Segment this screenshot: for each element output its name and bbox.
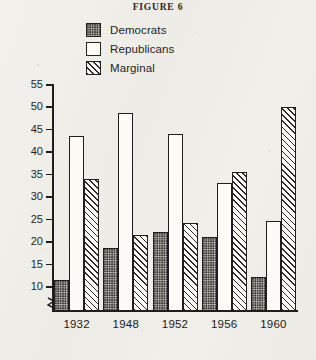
- y-tick-label: 35: [31, 168, 43, 180]
- y-tick-label: 15: [31, 258, 43, 270]
- y-tick-label: 55: [31, 78, 43, 90]
- bar-group-1952: [150, 100, 199, 311]
- legend-label-republicans: Republicans: [110, 43, 174, 55]
- bar-democrats-1948: [103, 248, 118, 311]
- x-tick-label-1956: 1956: [200, 318, 249, 330]
- bar-marginal-1948: [133, 235, 148, 311]
- legend-label-democrats: Democrats: [110, 24, 167, 36]
- bar-democrats-1960: [251, 277, 266, 311]
- x-tick-label-1952: 1952: [150, 318, 199, 330]
- y-tick-label: 45: [31, 123, 43, 135]
- bar-republicans-1956: [217, 183, 232, 311]
- y-tick-mark: [46, 84, 53, 86]
- bar-republicans-1932: [69, 136, 84, 311]
- y-tick-label: 25: [31, 213, 43, 225]
- x-tick-label-1948: 1948: [101, 318, 150, 330]
- legend-item-democrats: Democrats: [86, 20, 174, 39]
- figure-title: FIGURE 6: [0, 2, 316, 12]
- bar-marginal-1960: [281, 107, 296, 311]
- bar-republicans-1960: [266, 221, 281, 311]
- y-tick-label: 50: [31, 100, 43, 112]
- legend-item-marginal: Marginal: [86, 58, 174, 77]
- legend-label-marginal: Marginal: [110, 62, 155, 74]
- bar-marginal-1956: [232, 172, 247, 311]
- y-tick-label: 40: [31, 145, 43, 157]
- hatched-swatch-icon: [86, 61, 101, 75]
- x-axis-labels: 19321948195219561960: [52, 318, 298, 330]
- bar-chart: Numbers of Suburbs 10152025303540455055 …: [52, 84, 298, 328]
- bar-marginal-1932: [84, 179, 99, 311]
- y-tick-label: 30: [31, 190, 43, 202]
- bar-republicans-1952: [168, 134, 183, 311]
- x-tick-label-1932: 1932: [52, 318, 101, 330]
- dotted-swatch-icon: [86, 23, 101, 37]
- bar-republicans-1948: [118, 113, 133, 311]
- empty-swatch-icon: [86, 42, 101, 56]
- bar-democrats-1956: [202, 237, 217, 311]
- chart-legend: Democrats Republicans Marginal: [86, 20, 174, 77]
- y-tick-label: 20: [31, 235, 43, 247]
- bar-groups: [52, 100, 298, 311]
- bar-democrats-1932: [54, 280, 69, 311]
- bar-group-1932: [52, 100, 101, 311]
- bar-democrats-1952: [153, 232, 168, 311]
- x-tick-label-1960: 1960: [249, 318, 298, 330]
- bar-marginal-1952: [183, 223, 198, 311]
- caption-sliver: [4, 352, 312, 360]
- legend-item-republicans: Republicans: [86, 39, 174, 58]
- y-tick-label: 10: [31, 280, 43, 292]
- bar-group-1960: [249, 100, 298, 311]
- bar-group-1956: [200, 100, 249, 311]
- bar-group-1948: [101, 100, 150, 311]
